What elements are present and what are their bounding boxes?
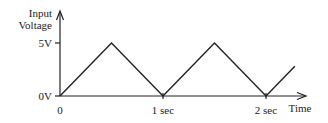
y-tick-label: 5V	[39, 37, 53, 49]
x-tick-label: 0	[57, 104, 63, 116]
triangle-wave-chart: Input Voltage Time 01 sec2 sec0V5V	[0, 0, 328, 123]
x-tick-label: 2 sec	[255, 104, 277, 116]
x-axis-label: Time	[289, 102, 312, 114]
triangle-wave-line	[60, 43, 295, 96]
y-axis-label-line-2: Voltage	[19, 19, 53, 31]
y-tick-label: 0V	[39, 90, 53, 102]
x-tick-label: 1 sec	[152, 104, 174, 116]
y-axis-label-line-1: Input	[29, 7, 52, 19]
